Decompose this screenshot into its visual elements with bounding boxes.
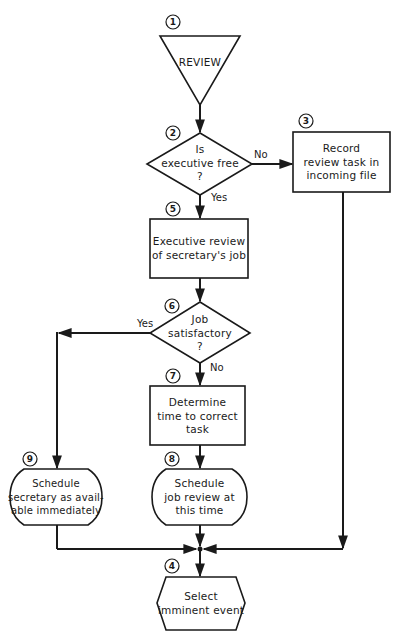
node-8-label: Schedule job review at this time <box>152 477 247 518</box>
node-6-line-2: satisfactory <box>155 327 245 341</box>
node-6-line-3: ? <box>155 340 245 354</box>
node-5-label: Executive review of secretary's job <box>150 235 248 262</box>
edge-label-no-2: No <box>254 149 268 160</box>
node-7-line-2: time to correct <box>150 410 245 424</box>
node-1-label: REVIEW <box>170 56 230 70</box>
node-9-number: 9 <box>23 452 37 466</box>
node-2-label: Is executive free ? <box>155 143 245 184</box>
node-6-line-1: Job <box>155 313 245 327</box>
edge-label-no-6: No <box>210 362 224 373</box>
node-4-line-1: Select <box>157 590 245 604</box>
node-9-line-2: secretary as avail- <box>8 491 104 505</box>
node-9-line-1: Schedule <box>8 477 104 491</box>
node-3-line-1: Record <box>293 142 390 156</box>
node-2-line-3: ? <box>155 170 245 184</box>
node-8-number: 8 <box>165 452 179 466</box>
node-3-number: 3 <box>299 114 313 128</box>
node-7-number: 7 <box>166 369 180 383</box>
node-2-number: 2 <box>166 126 180 140</box>
node-3-line-3: incoming file <box>293 169 390 183</box>
node-2-line-1: Is <box>155 143 245 157</box>
node-2-line-2: executive free <box>155 157 245 171</box>
node-1-number: 1 <box>166 15 180 29</box>
edge-label-yes-6: Yes <box>137 318 153 329</box>
node-1-triangle[interactable] <box>160 36 240 105</box>
node-3-label: Record review task in incoming file <box>293 142 390 183</box>
node-6-number: 6 <box>165 299 179 313</box>
node-4-label: Select imminent event <box>157 590 245 617</box>
node-8-line-3: this time <box>152 504 247 518</box>
node-8-line-2: job review at <box>152 491 247 505</box>
node-5-number: 5 <box>166 202 180 216</box>
node-7-line-3: task <box>150 423 245 437</box>
node-7-label: Determine time to correct task <box>150 396 245 437</box>
node-7-line-1: Determine <box>150 396 245 410</box>
node-8-line-1: Schedule <box>152 477 247 491</box>
node-5-line-2: of secretary's job <box>150 249 248 263</box>
node-9-line-3: able immediately <box>8 504 104 518</box>
node-4-line-2: imminent event <box>157 604 245 618</box>
node-9-label: Schedule secretary as avail- able immedi… <box>8 477 104 518</box>
node-5-line-1: Executive review <box>150 235 248 249</box>
junction-dot <box>198 547 203 552</box>
node-6-label: Job satisfactory ? <box>155 313 245 354</box>
edge-label-yes-2: Yes <box>211 192 227 203</box>
node-3-line-2: review task in <box>293 156 390 170</box>
node-4-number: 4 <box>165 559 179 573</box>
